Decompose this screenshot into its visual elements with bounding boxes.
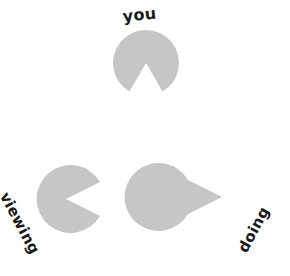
label-you: you — [122, 5, 157, 24]
illusion-canvas: you viewing doing — [0, 0, 290, 276]
pacman-bottom-left-shape — [37, 165, 100, 233]
pacman-top-shape — [113, 30, 179, 92]
pacman-bottom-right-shape — [125, 163, 222, 231]
